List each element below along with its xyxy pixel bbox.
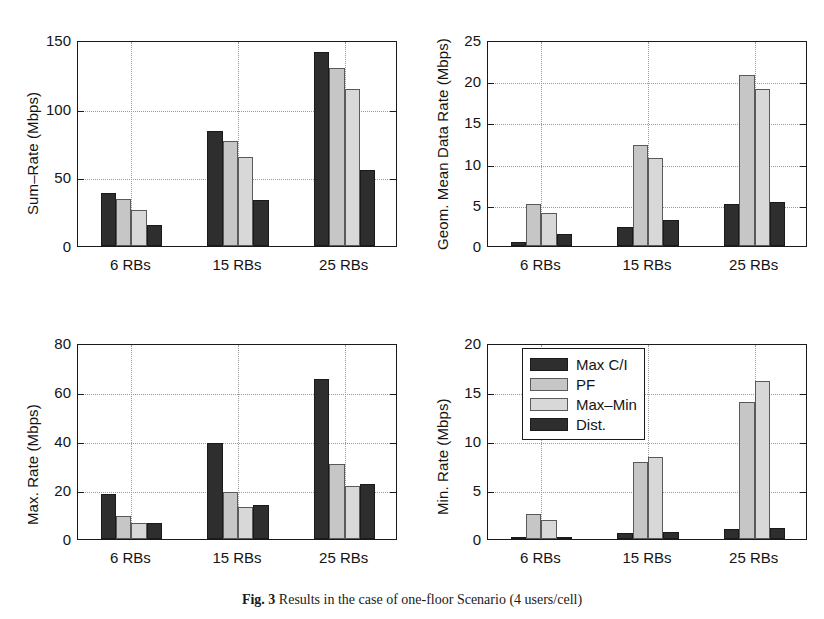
bar-dist-25-rbs bbox=[770, 528, 785, 539]
bar-pf-15-rbs bbox=[633, 462, 648, 539]
y-axis-tick bbox=[78, 111, 84, 112]
legend-label: Max C/I bbox=[576, 357, 628, 372]
x-axis-tick-label: 25 RBs bbox=[709, 256, 799, 273]
figure-number: Fig. 3 bbox=[242, 592, 275, 607]
legend-label: Dist. bbox=[576, 417, 606, 432]
gridline-horizontal bbox=[78, 394, 396, 395]
y-axis-tick bbox=[800, 207, 806, 208]
bar-max-c-i-25-rbs bbox=[724, 204, 739, 246]
bar-dist-6-rbs bbox=[557, 234, 572, 246]
legend-swatch bbox=[530, 398, 568, 411]
bar-dist-15-rbs bbox=[253, 200, 268, 246]
bar-max-min-25-rbs bbox=[345, 89, 360, 246]
y-axis-tick bbox=[488, 443, 494, 444]
plot-area-geom-mean-data-rate bbox=[487, 41, 807, 247]
bar-max-c-i-15-rbs bbox=[617, 533, 632, 539]
x-axis-tick-label: 25 RBs bbox=[299, 256, 389, 273]
y-axis-tick-label: 5 bbox=[437, 482, 481, 499]
y-axis-tick-label: 0 bbox=[27, 531, 71, 548]
y-axis-tick-label: 0 bbox=[27, 238, 71, 255]
gridline-horizontal bbox=[78, 443, 396, 444]
bar-dist-6-rbs bbox=[557, 537, 572, 539]
y-axis-tick bbox=[488, 166, 494, 167]
bar-max-min-15-rbs bbox=[238, 157, 253, 246]
x-axis-tick-label: 15 RBs bbox=[192, 549, 282, 566]
bar-pf-25-rbs bbox=[739, 402, 754, 539]
legend-label: Max–Min bbox=[576, 397, 637, 412]
y-axis-tick bbox=[488, 124, 494, 125]
bar-max-c-i-15-rbs bbox=[617, 227, 632, 246]
bar-max-c-i-15-rbs bbox=[207, 131, 222, 246]
bar-max-c-i-6-rbs bbox=[511, 242, 526, 246]
y-axis-tick-label: 10 bbox=[437, 156, 481, 173]
legend: Max C/IPFMax–MinDist. bbox=[522, 348, 645, 440]
y-axis-tick-label: 20 bbox=[437, 335, 481, 352]
bar-max-c-i-6-rbs bbox=[101, 494, 116, 539]
figure-caption: Fig. 3 Results in the case of one-floor … bbox=[0, 592, 824, 619]
bar-pf-25-rbs bbox=[329, 464, 344, 539]
y-axis-tick bbox=[488, 207, 494, 208]
y-axis-tick-label: 0 bbox=[437, 238, 481, 255]
bar-dist-15-rbs bbox=[663, 532, 678, 539]
y-axis-tick bbox=[390, 492, 396, 493]
bar-max-c-i-25-rbs bbox=[314, 379, 329, 539]
y-axis-tick-label: 20 bbox=[27, 482, 71, 499]
legend-swatch bbox=[530, 358, 568, 371]
bar-max-min-25-rbs bbox=[345, 486, 360, 539]
chart-panel-sum-rate: Sum–Rate (Mbps) 0501001506 RBs15 RBs25 R… bbox=[0, 0, 412, 310]
y-axis-tick-label: 25 bbox=[437, 32, 481, 49]
y-axis-tick-label: 150 bbox=[27, 32, 71, 49]
bar-dist-25-rbs bbox=[770, 202, 785, 246]
bar-pf-15-rbs bbox=[223, 141, 238, 246]
bar-max-c-i-25-rbs bbox=[314, 52, 329, 246]
chart-panel-max-rate: Max. Rate (Mbps) 0204060806 RBs15 RBs25 … bbox=[0, 310, 412, 580]
bar-pf-15-rbs bbox=[633, 145, 648, 246]
y-axis-tick bbox=[78, 443, 84, 444]
x-axis-tick-label: 25 RBs bbox=[709, 549, 799, 566]
legend-item: Max–Min bbox=[530, 394, 637, 414]
y-axis-tick bbox=[488, 394, 494, 395]
bar-dist-6-rbs bbox=[147, 523, 162, 539]
bar-max-c-i-6-rbs bbox=[511, 537, 526, 539]
y-axis-label-geom-mean-data-rate: Geom. Mean Data Rate (Mbps) bbox=[434, 38, 451, 250]
y-axis-tick bbox=[78, 492, 84, 493]
x-axis-tick-label: 6 RBs bbox=[85, 256, 175, 273]
y-axis-tick-label: 10 bbox=[437, 433, 481, 450]
bar-max-min-15-rbs bbox=[648, 457, 663, 539]
bar-max-min-15-rbs bbox=[648, 158, 663, 246]
figure-caption-text: Results in the case of one-floor Scenari… bbox=[279, 592, 582, 607]
bar-max-min-25-rbs bbox=[755, 89, 770, 246]
y-axis-tick-label: 20 bbox=[437, 73, 481, 90]
x-axis-tick-label: 6 RBs bbox=[495, 549, 585, 566]
plot-area-sum-rate bbox=[77, 41, 397, 247]
bar-pf-6-rbs bbox=[526, 204, 541, 246]
x-axis-tick-label: 15 RBs bbox=[602, 256, 692, 273]
legend-swatch bbox=[530, 418, 568, 431]
bar-dist-6-rbs bbox=[147, 225, 162, 246]
legend-item: PF bbox=[530, 374, 637, 394]
x-axis-tick-label: 6 RBs bbox=[85, 549, 175, 566]
y-axis-tick-label: 80 bbox=[27, 335, 71, 352]
y-axis-tick-label: 15 bbox=[437, 384, 481, 401]
bar-pf-6-rbs bbox=[116, 199, 131, 246]
x-axis-tick-label: 15 RBs bbox=[192, 256, 282, 273]
y-axis-tick-label: 100 bbox=[27, 101, 71, 118]
y-axis-tick bbox=[488, 83, 494, 84]
legend-label: PF bbox=[576, 377, 595, 392]
x-axis-tick-label: 25 RBs bbox=[299, 549, 389, 566]
bar-dist-15-rbs bbox=[663, 220, 678, 246]
bar-dist-25-rbs bbox=[360, 170, 375, 246]
y-axis-label-max-rate: Max. Rate (Mbps) bbox=[24, 404, 41, 525]
y-axis-tick bbox=[390, 443, 396, 444]
bar-pf-6-rbs bbox=[116, 516, 131, 539]
y-axis-tick bbox=[390, 179, 396, 180]
plot-area-max-rate bbox=[77, 344, 397, 540]
chart-panel-min-rate: Min. Rate (Mbps) Max C/IPFMax–MinDist. 0… bbox=[412, 310, 824, 580]
bar-pf-25-rbs bbox=[739, 75, 754, 246]
y-axis-tick bbox=[800, 394, 806, 395]
bar-max-min-6-rbs bbox=[541, 213, 556, 246]
bar-max-min-6-rbs bbox=[131, 523, 146, 539]
y-axis-tick bbox=[390, 394, 396, 395]
legend-swatch bbox=[530, 378, 568, 391]
x-axis-tick-label: 15 RBs bbox=[602, 549, 692, 566]
